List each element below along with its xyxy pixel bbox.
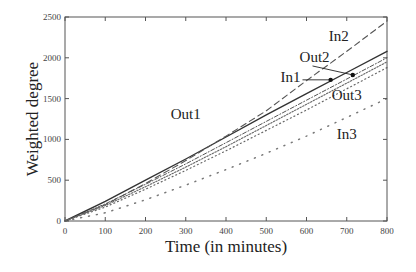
annotation-in3: In3 [337, 126, 357, 142]
annotation-in2: In2 [329, 28, 349, 44]
x-tick-label: 0 [63, 226, 68, 236]
out2-arrowhead-icon [351, 73, 355, 77]
y-tick-label: 2500 [43, 12, 62, 22]
y-tick-label: 0 [57, 216, 62, 226]
y-tick-label: 1000 [43, 134, 62, 144]
out2-leader-line [313, 66, 353, 75]
x-tick-label: 700 [340, 226, 354, 236]
y-axis-label: Weighted degree [23, 62, 42, 176]
x-tick-label: 200 [139, 226, 153, 236]
x-tick-label: 500 [260, 226, 274, 236]
plot-frame [65, 17, 387, 221]
x-axis-label: Time (in minutes) [165, 237, 287, 256]
line-chart: 0100200300400500600700800050010001500200… [0, 0, 416, 272]
y-tick-label: 500 [48, 175, 62, 185]
in1-arrowhead-icon [328, 78, 332, 82]
axis-ticks: 0100200300400500600700800050010001500200… [43, 12, 394, 236]
annotation-out1: Out1 [171, 106, 201, 122]
y-tick-label: 1500 [43, 94, 62, 104]
x-tick-label: 600 [300, 226, 314, 236]
series-line-in3 [65, 99, 387, 221]
annotation-out2: Out2 [300, 49, 330, 65]
x-tick-label: 800 [380, 226, 394, 236]
annotation-out3: Out3 [332, 87, 362, 103]
x-tick-label: 100 [99, 226, 113, 236]
y-tick-label: 2000 [43, 53, 62, 63]
plot-area [65, 17, 387, 221]
x-tick-label: 400 [219, 226, 233, 236]
x-tick-label: 300 [179, 226, 193, 236]
series-line-in2 [65, 21, 387, 221]
annotation-in1: In1 [280, 69, 300, 85]
